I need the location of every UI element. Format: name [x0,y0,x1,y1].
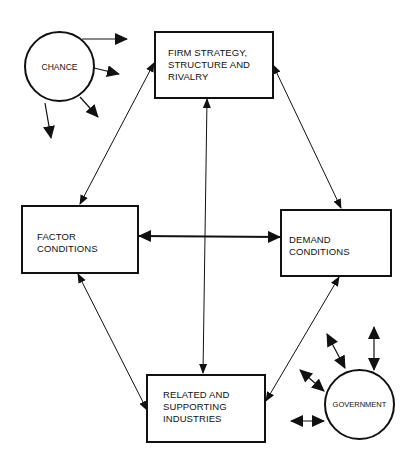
chance-arrow-right [94,68,119,74]
chance-arrow-down [45,103,51,138]
node-related-supporting: RELATED AND SUPPORTING INDUSTRIES [146,374,266,443]
gov-arrow-left-upper [300,370,324,391]
node-government: GOVERNMENT [324,369,395,440]
node-chance-label: CHANCE [42,62,78,72]
node-factor-conditions-label: FACTOR CONDITIONS [37,231,137,255]
node-demand-conditions-label: DEMAND CONDITIONS [289,234,390,258]
arrow-demand-related [266,277,339,401]
gov-arrow-up-left [327,334,345,368]
node-government-label: GOVERNMENT [333,400,387,409]
chance-arrow-down-right [80,97,98,117]
arrow-factor-related [78,274,147,410]
arrow-firm-demand [273,65,341,208]
node-firm-strategy: FIRM STRATEGY, STRUCTURE AND RIVALRY [154,31,274,99]
node-related-supporting-label: RELATED AND SUPPORTING INDUSTRIES [163,389,229,425]
arrow-factor-demand [139,236,280,237]
node-firm-strategy-label: FIRM STRATEGY, STRUCTURE AND RIVALRY [168,47,250,83]
arrow-firm-factor [80,63,154,204]
node-chance: CHANCE [24,31,95,102]
node-factor-conditions: FACTOR CONDITIONS [21,205,139,274]
node-demand-conditions: DEMAND CONDITIONS [280,209,392,277]
